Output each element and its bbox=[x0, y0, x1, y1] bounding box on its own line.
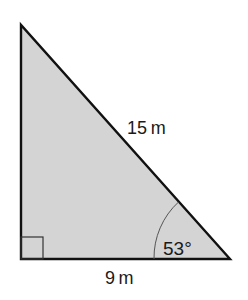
hypotenuse-label: 15 m bbox=[127, 118, 166, 138]
triangle-diagram: 15 m 53° 9 m bbox=[0, 0, 248, 300]
angle-label: 53° bbox=[163, 238, 192, 259]
base-label: 9 m bbox=[105, 268, 134, 288]
triangle bbox=[21, 25, 230, 259]
